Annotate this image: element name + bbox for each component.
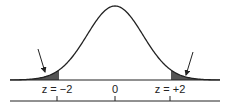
label-z-plus-2: z = +2 — [155, 83, 186, 95]
left-arrow-icon — [38, 49, 45, 72]
right-arrow-icon — [186, 52, 193, 75]
label-zero: 0 — [112, 83, 118, 95]
bell-curve — [10, 6, 220, 80]
normal-distribution-diagram: z = −2 0 z = +2 — [0, 0, 228, 111]
label-z-minus-2: z = −2 — [42, 83, 73, 95]
